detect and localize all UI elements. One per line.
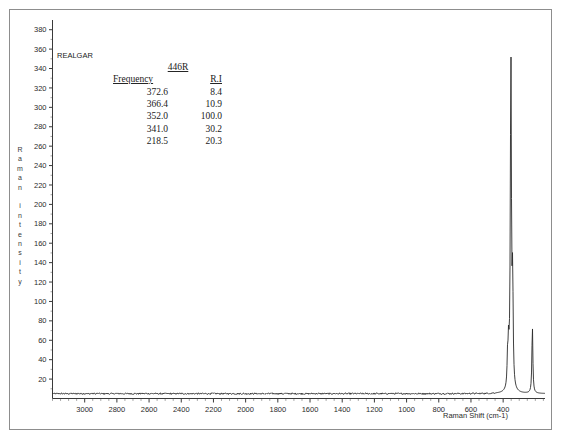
y-axis-title: Ramanintensity [17,146,23,286]
x-tick-label: 2200 [205,405,222,414]
y-tick-label: 280 [34,122,47,131]
peak-table-cell-ri: 10.9 [205,99,222,109]
x-tick-label: 1000 [398,405,415,414]
y-axis-title-letter: i [19,259,21,266]
x-tick-label: 1600 [302,405,319,414]
y-tick-label: 300 [34,103,47,112]
y-tick-label: 200 [34,200,47,209]
peak-table-title: 446R [168,62,189,72]
peak-table-cell-ri: 20.3 [205,136,222,146]
y-axis-title-letter: e [18,231,22,238]
x-tick-label: 1200 [366,405,383,414]
y-axis-title-letter: n [18,240,22,247]
spectrum-svg: 2040608010012014016018020022024026028030… [0,0,561,439]
y-tick-label: 340 [34,64,47,73]
peak-table-cell-frequency: 341.0 [147,124,169,134]
y-tick-label: 140 [34,258,47,267]
y-axis: 2040608010012014016018020022024026028030… [34,25,53,388]
x-tick-label: 1800 [269,405,286,414]
y-tick-label: 20 [38,375,46,384]
peak-table-col-ri: R.I [210,74,222,84]
y-axis-title-letter: m [17,165,23,172]
y-tick-label: 360 [34,45,47,54]
y-axis-title-letter: y [18,278,22,286]
peak-table-col-frequency: Frequency [113,74,153,84]
y-axis-title-letter: n [18,184,22,191]
figure-page: 2040608010012014016018020022024026028030… [0,0,561,439]
y-axis-title-letter: t [19,268,21,275]
y-tick-label: 80 [38,316,46,325]
peak-table-cell-ri: 30.2 [205,124,222,134]
y-tick-label: 100 [34,297,47,306]
y-axis-title-letter: a [18,155,22,162]
peak-table-cell-frequency: 352.0 [147,111,169,121]
spectrum-plot: 2040608010012014016018020022024026028030… [0,0,561,439]
peak-table: 446RFrequencyR.I372.68.4366.410.9352.010… [113,62,222,146]
y-tick-label: 160 [34,239,47,248]
y-tick-label: 320 [34,84,47,93]
peak-table-cell-ri: 100.0 [201,111,223,121]
peak-table-cell-ri: 8.4 [210,87,222,97]
y-tick-label: 240 [34,161,47,170]
y-tick-label: 380 [34,25,47,34]
y-axis-title-letter: i [19,202,21,209]
y-tick-label: 120 [34,278,47,287]
y-axis-title-letter: a [18,174,22,181]
y-tick-label: 60 [38,336,46,345]
x-tick-label: 2800 [109,405,126,414]
spectrum-trace [53,57,546,394]
x-tick-label: 2400 [173,405,190,414]
y-tick-label: 180 [34,219,47,228]
x-tick-label: 2600 [141,405,158,414]
peak-table-cell-frequency: 372.6 [147,87,169,97]
x-tick-label: 2000 [237,405,254,414]
y-axis-title-letter: t [19,221,21,228]
y-axis-title-letter: s [18,249,22,256]
peak-table-cell-frequency: 366.4 [147,99,169,109]
x-axis-title: Raman Shift (cm-1) [443,411,509,420]
y-axis-title-letter: n [18,212,22,219]
x-tick-label: 3000 [76,405,93,414]
x-tick-label: 1400 [334,405,351,414]
sample-name-label: REALGAR [57,51,93,60]
y-tick-label: 260 [34,142,47,151]
y-axis-title-letter: R [17,146,22,153]
y-tick-label: 220 [34,181,47,190]
y-tick-label: 40 [38,355,46,364]
peak-table-cell-frequency: 218.5 [147,136,169,146]
